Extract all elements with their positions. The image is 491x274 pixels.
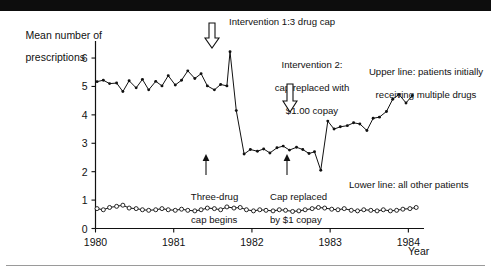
data-point [276,146,279,149]
data-point [180,207,184,211]
data-point [147,88,150,91]
series-upper-line [96,50,414,171]
data-point [301,148,304,151]
data-point [330,207,334,211]
data-point [174,84,177,87]
data-point [333,128,336,131]
bottom-rule [6,265,485,266]
data-point [288,149,291,152]
data-point [121,90,124,93]
data-point [256,150,259,153]
data-point [313,150,316,153]
data-point [186,208,190,212]
series-lower-line [95,203,418,213]
y-tick-label: 2 [74,166,88,178]
data-point [127,206,131,210]
data-point [101,208,105,212]
data-point [193,209,197,213]
x-tick-label: 1984 [388,236,428,248]
figure-root: Mean number of prescriptions Year Interv… [0,0,491,274]
data-point [362,208,366,212]
data-point [128,79,131,82]
data-point [271,209,275,213]
data-point [336,208,340,212]
data-point [199,208,203,212]
data-point [225,84,228,87]
data-point [121,203,125,207]
data-point [167,74,170,77]
data-point [243,153,246,156]
data-point [249,148,252,151]
data-point [154,80,157,83]
data-point [291,209,295,213]
data-point [401,207,405,211]
data-point [282,145,285,148]
data-point [375,209,379,213]
data-point [160,207,164,211]
data-point [186,69,189,72]
axes-group [96,41,425,229]
data-point [141,78,144,81]
data-point [297,209,301,213]
data-point [229,50,232,53]
data-point [356,209,360,213]
data-point [166,208,170,212]
data-point [349,208,353,212]
data-point [395,208,399,212]
data-point [303,208,307,212]
y-tick-label: 4 [74,109,88,121]
data-point [369,208,373,212]
data-point [346,124,349,127]
marker-arrow-cap-replaced [284,154,291,175]
data-point [180,79,183,82]
data-point [193,77,196,80]
data-point [213,88,216,91]
x-tick-label: 1982 [232,236,272,248]
x-tick-label: 1981 [154,236,194,248]
data-point [212,207,216,211]
data-point [115,204,119,208]
intervention-2-arrow [283,84,297,112]
data-point [173,208,177,212]
data-point [414,205,418,209]
data-point [264,208,268,212]
data-point [134,207,138,211]
y-tick-label: 0 [74,223,88,235]
data-point [408,207,412,211]
series-path [97,205,416,211]
data-point [102,79,105,82]
data-point [308,152,311,155]
data-point [108,205,112,209]
data-point [225,205,229,209]
data-point [365,129,368,132]
y-tick-label: 1 [74,194,88,206]
data-point [96,80,99,83]
data-point [135,86,138,89]
data-point [277,208,281,212]
series-path [97,52,412,170]
data-point [268,151,271,154]
data-point [140,208,144,212]
data-point [108,82,111,85]
data-point [323,206,327,210]
x-tick-marks [96,229,409,233]
data-point [238,205,242,209]
y-tick-label: 3 [74,137,88,149]
data-point [405,101,408,104]
data-point [316,205,320,209]
intervention-1-arrow [205,23,219,48]
data-point [147,208,151,212]
data-point [342,207,346,211]
data-point [232,206,236,210]
data-point [219,208,223,212]
marker-arrow-three-drug-cap [203,154,210,175]
data-point [385,110,388,113]
data-point [115,82,118,85]
data-point [352,121,355,124]
x-tick-label: 1983 [310,236,350,248]
data-point [161,84,164,87]
data-point [391,98,394,101]
data-point [388,209,392,213]
data-point [219,83,222,86]
data-point [262,148,265,151]
